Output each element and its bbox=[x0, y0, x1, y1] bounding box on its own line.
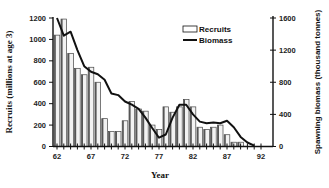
recruits-bar-shade bbox=[163, 107, 165, 147]
recruits-bar-shade bbox=[129, 102, 131, 147]
legend-biomass-label: Biomass bbox=[199, 36, 233, 45]
recruits-bar-shade bbox=[95, 82, 97, 146]
x-axis-ticks: 62677277828792 bbox=[53, 144, 265, 161]
x-tick-label: 87 bbox=[223, 152, 231, 161]
recruits-bar-shade bbox=[75, 68, 77, 146]
x-tick-label: 82 bbox=[189, 152, 197, 161]
recruits-bar-shade bbox=[183, 99, 185, 146]
recruits-bar-shade bbox=[136, 109, 138, 146]
recruits-bar-shade bbox=[109, 132, 111, 147]
x-tick-label: 92 bbox=[257, 152, 265, 161]
recruits-bar-shade bbox=[177, 107, 179, 147]
recruits-bar-shade bbox=[156, 129, 158, 146]
recruits-bar-shade bbox=[211, 127, 213, 146]
x-tick-label: 67 bbox=[87, 152, 95, 161]
left-y-tick-label: 800 bbox=[33, 56, 46, 65]
x-tick-label: 77 bbox=[155, 152, 163, 161]
right-y-tick-label: 1200 bbox=[279, 46, 296, 55]
recruits-bar-shade bbox=[115, 132, 117, 147]
recruits-bar-shade bbox=[54, 35, 56, 146]
legend-recruits-label: Recruits bbox=[199, 25, 232, 34]
recruits-bar-shade bbox=[88, 67, 90, 146]
legend-recruits-swatch bbox=[183, 26, 197, 32]
right-y-tick-label: 1600 bbox=[279, 14, 296, 23]
recruits-bar-shade bbox=[122, 121, 124, 147]
right-y-axis-ticks: 040080012001600 bbox=[270, 14, 296, 152]
left-y-tick-label: 1200 bbox=[29, 14, 46, 23]
x-axis-title: Year bbox=[151, 170, 169, 180]
recruits-bar-shade bbox=[149, 125, 151, 146]
x-tick-label: 62 bbox=[53, 152, 61, 161]
left-y-tick-label: 200 bbox=[33, 121, 46, 130]
recruits-bar-shade bbox=[217, 125, 219, 146]
recruits-bar-shade bbox=[224, 135, 226, 147]
recruits-bar-shade bbox=[61, 19, 63, 146]
recruits-bar-shade bbox=[204, 129, 206, 146]
left-y-axis-title: Recruits (millions at age 3) bbox=[4, 31, 14, 134]
recruits-bar-shade bbox=[81, 75, 83, 147]
right-y-tick-label: 400 bbox=[279, 110, 292, 119]
chart: 62677277828792 020040060080010001200 040… bbox=[0, 0, 329, 188]
left-y-tick-label: 400 bbox=[33, 99, 46, 108]
recruits-bar-shade bbox=[197, 127, 199, 146]
right-y-tick-label: 0 bbox=[279, 142, 283, 151]
left-y-tick-label: 1000 bbox=[29, 35, 46, 44]
left-y-axis-ticks: 020040060080010001200 bbox=[29, 14, 53, 152]
legend: Recruits Biomass bbox=[183, 25, 233, 45]
left-y-tick-label: 0 bbox=[42, 142, 46, 151]
recruits-bar-shade bbox=[102, 119, 104, 147]
x-tick-label: 72 bbox=[121, 152, 129, 161]
right-y-axis-title: Spawning biomass (thousand tonnes) bbox=[313, 9, 322, 154]
right-y-tick-label: 800 bbox=[279, 78, 292, 87]
recruits-bar-shade bbox=[170, 112, 172, 146]
recruits-bar-shade bbox=[68, 53, 70, 146]
left-y-tick-label: 600 bbox=[33, 78, 46, 87]
